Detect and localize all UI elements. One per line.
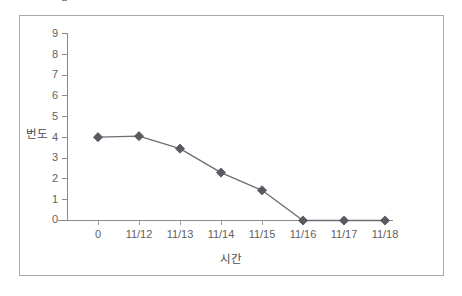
data-point-marker — [380, 216, 389, 225]
data-point-marker — [216, 168, 225, 177]
data-point-marker — [93, 133, 102, 142]
data-series-layer — [0, 0, 462, 296]
series-line-frequency — [98, 136, 385, 220]
data-point-marker — [175, 144, 184, 153]
figure-root: 9 8 7 6 5 4 3 2 1 0 0 11/12 11/13 11/14 … — [0, 0, 462, 296]
data-point-marker — [134, 132, 143, 141]
series-markers-frequency — [93, 132, 389, 226]
data-point-marker — [339, 216, 348, 225]
